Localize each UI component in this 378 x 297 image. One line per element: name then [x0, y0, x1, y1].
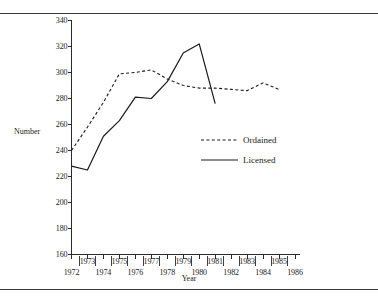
x-axis-title: Year — [0, 275, 378, 283]
y-tick-label: 260 — [44, 121, 68, 129]
y-tick-label: 240 — [44, 147, 68, 155]
y-tick-label: 180 — [44, 225, 68, 233]
y-tick-label: 300 — [44, 69, 68, 77]
x-tick-label: 1977 — [138, 258, 164, 266]
y-axis-title: Number — [14, 128, 40, 136]
series-line-licensed — [72, 44, 216, 170]
legend-label-ordained: Ordained — [243, 136, 277, 145]
data-series — [72, 44, 280, 170]
figure-container: 160180200220240260280300320340 197319751… — [0, 0, 378, 297]
y-tick-label: 280 — [44, 95, 68, 103]
y-tick-label: 320 — [44, 43, 68, 51]
x-tick-label: 1983 — [234, 258, 260, 266]
y-tick-label: 220 — [44, 173, 68, 181]
y-tick-label: 200 — [44, 199, 68, 207]
legend — [201, 140, 238, 160]
x-tick-label: 1975 — [106, 258, 132, 266]
legend-label-licensed: Licensed — [243, 156, 275, 165]
x-tick-label: 1981 — [202, 258, 228, 266]
y-tick-label: 160 — [44, 251, 68, 259]
x-tick-label: 1973 — [74, 258, 100, 266]
x-tick-label: 1979 — [170, 258, 196, 266]
x-tick-label: 1985 — [266, 258, 292, 266]
y-tick-label: 340 — [44, 17, 68, 25]
